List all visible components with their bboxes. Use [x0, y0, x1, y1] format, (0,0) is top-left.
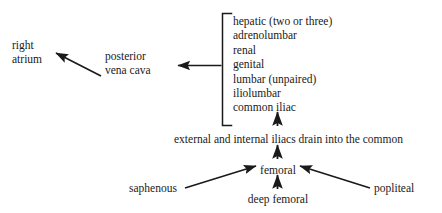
list-item: lumbar (unpaired) — [233, 72, 332, 86]
list-item: common iliac — [233, 100, 332, 114]
arrow-saphenous-to-femoral — [185, 166, 256, 188]
arrow-posterior-vena-cava-to-right-atrium — [56, 53, 101, 76]
list-item: iliolumbar — [233, 86, 332, 100]
tributary-list: hepatic (two or three) adrenolumbar rena… — [233, 14, 332, 115]
node-femoral: femoral — [253, 163, 303, 177]
tributary-bracket — [223, 14, 232, 126]
arrow-popliteal-to-femoral — [300, 166, 370, 188]
node-saphenous: saphenous — [129, 181, 177, 195]
node-iliac-statement: external and internal iliacs drain into … — [174, 132, 403, 146]
list-item: renal — [233, 43, 332, 57]
node-deep-femoral: deep femoral — [243, 192, 313, 206]
list-item: hepatic (two or three) — [233, 14, 332, 28]
list-item: adrenolumbar — [233, 28, 332, 42]
venous-drainage-diagram: right atrium posterior vena cava hepatic… — [0, 0, 442, 213]
node-posterior-vena-cava: posterior vena cava — [105, 49, 151, 78]
list-item: genital — [233, 57, 332, 71]
node-right-atrium: right atrium — [12, 38, 42, 67]
node-popliteal: popliteal — [374, 181, 414, 195]
